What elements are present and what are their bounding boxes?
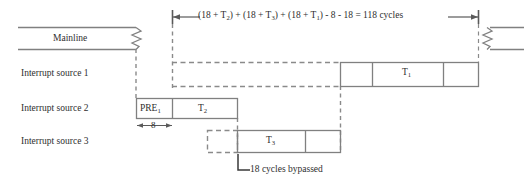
t3-box-label: T3 [266,136,275,146]
top-annotation-text: (18 + T2) + (18 + T3) + (18 + T1) - 8 - … [198,11,403,21]
row-label-interrupt-source-2: Interrupt source 2 [21,104,89,114]
mainline-bar-label: Mainline [53,34,87,44]
eight-cycle-label: 8 [151,121,156,130]
t3-box [238,131,341,153]
row-label-interrupt-source-3: Interrupt source 3 [21,137,89,147]
timing-diagram-canvas [0,0,524,189]
row-label-interrupt-source-1: Interrupt source 1 [21,69,89,79]
pre1-box-label: PRE1 [140,104,161,114]
t3-bypassed-box [208,131,238,153]
interrupt-source-1-track [172,63,479,87]
t2-box-label: T2 [198,104,207,114]
timing-diagram: (18 + T2) + (18 + T3) + (18 + T1) - 8 - … [0,0,524,189]
bypassed-leader-line [238,154,250,170]
t1-box-label: T1 [402,68,411,78]
mainline-track [18,28,524,50]
bypassed-callout-label: 18 cycles bypassed [250,165,323,175]
dashed-connectors [136,24,479,152]
